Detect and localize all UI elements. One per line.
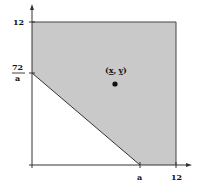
x-label-12: 12 <box>171 172 182 182</box>
shaded-region <box>32 22 176 165</box>
y-label-72-numerator: 72 <box>12 62 23 72</box>
point-marker <box>112 81 117 86</box>
y-axis-arrow-icon <box>30 4 34 10</box>
point-label: (x,y) <box>105 65 127 75</box>
diagram-canvas: 12 72 a a 12 (x,y) <box>0 0 201 185</box>
y-label-12: 12 <box>13 17 24 27</box>
x-label-a: a <box>137 172 142 182</box>
x-axis-arrow-icon <box>186 163 192 167</box>
y-label-a-denominator: a <box>15 73 20 83</box>
